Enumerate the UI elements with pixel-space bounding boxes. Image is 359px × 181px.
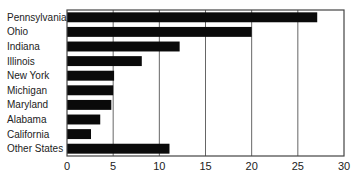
x-tick-label: 20 bbox=[246, 160, 258, 172]
category-label: Pennsylvania bbox=[7, 12, 67, 23]
bar-chart: PennsylvaniaOhioIndianaIllinoisNew YorkM… bbox=[0, 0, 359, 181]
bar-california bbox=[67, 129, 91, 139]
x-tick-label: 15 bbox=[199, 160, 211, 172]
category-labels: PennsylvaniaOhioIndianaIllinoisNew YorkM… bbox=[7, 12, 67, 154]
bar-alabama bbox=[67, 115, 100, 125]
bar-illinois bbox=[67, 56, 142, 66]
bar-new-york bbox=[67, 71, 114, 81]
category-label: Indiana bbox=[7, 41, 40, 52]
category-label: New York bbox=[7, 70, 50, 81]
bar-indiana bbox=[67, 42, 180, 52]
category-label: California bbox=[7, 129, 50, 140]
category-label: Michigan bbox=[7, 85, 47, 96]
bar-maryland bbox=[67, 100, 111, 110]
category-label: Illinois bbox=[7, 56, 35, 67]
category-label: Maryland bbox=[7, 99, 48, 110]
bar-ohio bbox=[67, 27, 252, 37]
category-label: Other States bbox=[7, 143, 63, 154]
category-label: Alabama bbox=[7, 114, 47, 125]
bar-other-states bbox=[67, 144, 169, 154]
x-tick-labels: 051015202530 bbox=[64, 160, 350, 172]
bar-pennsylvania bbox=[67, 12, 317, 22]
x-tick-label: 0 bbox=[64, 160, 70, 172]
x-tick-label: 30 bbox=[338, 160, 350, 172]
x-tick-label: 10 bbox=[153, 160, 165, 172]
x-tick-label: 5 bbox=[110, 160, 116, 172]
x-tick-label: 25 bbox=[292, 160, 304, 172]
bar-michigan bbox=[67, 85, 113, 95]
bars bbox=[67, 12, 317, 153]
category-label: Ohio bbox=[7, 26, 29, 37]
